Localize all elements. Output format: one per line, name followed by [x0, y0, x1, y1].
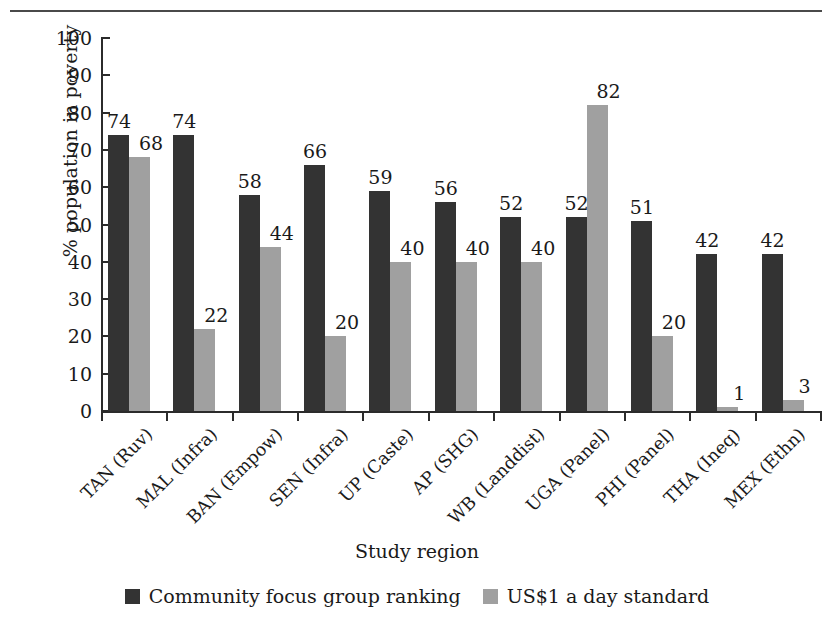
bar-value-label: 42	[751, 231, 795, 250]
bar-us-dollar-a-day-standard[interactable]	[129, 157, 150, 411]
legend-label: US$1 a day standard	[507, 585, 710, 607]
header-rule	[10, 10, 822, 12]
bar-value-label: 42	[685, 231, 729, 250]
x-tick-mark	[166, 411, 168, 421]
bar-group: 5282	[559, 38, 624, 411]
bar-group: 7468	[101, 38, 166, 411]
bar-community-focus-group-ranking[interactable]	[631, 221, 652, 411]
x-axis-title: Study region	[0, 540, 834, 562]
y-tick-label: 0	[40, 400, 92, 422]
bar-value-label: 52	[555, 194, 599, 213]
bar-community-focus-group-ranking[interactable]	[435, 202, 456, 411]
x-tick-mark	[428, 411, 430, 421]
bar-value-label: 74	[97, 112, 141, 131]
plot-area: 7468742258446620594056405240528251204214…	[101, 38, 820, 411]
x-tick-mark	[101, 411, 103, 421]
legend-item[interactable]: US$1 a day standard	[483, 585, 710, 607]
bar-group: 421	[689, 38, 754, 411]
bar-community-focus-group-ranking[interactable]	[173, 135, 194, 411]
bar-us-dollar-a-day-standard[interactable]	[390, 262, 411, 411]
bar-value-label: 3	[783, 377, 827, 396]
y-tick-label: 10	[40, 363, 92, 385]
bar-group: 5844	[232, 38, 297, 411]
bar-value-label: 66	[293, 142, 337, 161]
bar-group: 7422	[166, 38, 231, 411]
bar-group: 5940	[362, 38, 427, 411]
y-axis-title: % population in poverty	[59, 0, 81, 331]
bar-community-focus-group-ranking[interactable]	[566, 217, 587, 411]
y-tick-label: 50	[40, 214, 92, 236]
y-tick-label: 20	[40, 325, 92, 347]
x-tick-mark	[297, 411, 299, 421]
bar-value-label: 56	[424, 179, 468, 198]
bar-us-dollar-a-day-standard[interactable]	[194, 329, 215, 411]
bar-community-focus-group-ranking[interactable]	[108, 135, 129, 411]
bar-group: 423	[755, 38, 820, 411]
y-tick-label: 40	[40, 251, 92, 273]
legend-label: Community focus group ranking	[149, 585, 461, 607]
bar-us-dollar-a-day-standard[interactable]	[652, 336, 673, 411]
y-tick-label: 80	[40, 102, 92, 124]
x-tick-mark	[362, 411, 364, 421]
bar-group: 5240	[493, 38, 558, 411]
bar-us-dollar-a-day-standard[interactable]	[325, 336, 346, 411]
bar-value-label: 59	[358, 168, 402, 187]
bar-community-focus-group-ranking[interactable]	[304, 165, 325, 411]
bar-group: 5640	[428, 38, 493, 411]
bar-us-dollar-a-day-standard[interactable]	[260, 247, 281, 411]
y-tick-label: 70	[40, 139, 92, 161]
bar-community-focus-group-ranking[interactable]	[239, 195, 260, 411]
legend-item[interactable]: Community focus group ranking	[125, 585, 461, 607]
x-tick-mark	[624, 411, 626, 421]
bar-community-focus-group-ranking[interactable]	[500, 217, 521, 411]
bar-community-focus-group-ranking[interactable]	[696, 254, 717, 411]
legend-swatch-icon	[483, 589, 498, 604]
x-tick-mark	[755, 411, 757, 421]
bar-group: 5120	[624, 38, 689, 411]
bar-value-label: 58	[228, 172, 272, 191]
bar-value-label: 74	[162, 112, 206, 131]
bar-us-dollar-a-day-standard[interactable]	[456, 262, 477, 411]
y-tick-label: 90	[40, 64, 92, 86]
x-tick-mark	[232, 411, 234, 421]
bar-group: 6620	[297, 38, 362, 411]
y-tick-label: 100	[40, 27, 92, 49]
bar-community-focus-group-ranking[interactable]	[369, 191, 390, 411]
bar-us-dollar-a-day-standard[interactable]	[717, 407, 738, 411]
bar-chart-figure: % population in poverty 1009080706050403…	[0, 0, 834, 635]
x-tick-mark	[689, 411, 691, 421]
bar-community-focus-group-ranking[interactable]	[762, 254, 783, 411]
x-tick-mark	[559, 411, 561, 421]
x-tick-mark	[493, 411, 495, 421]
y-tick-label: 30	[40, 288, 92, 310]
bar-us-dollar-a-day-standard[interactable]	[587, 105, 608, 411]
bar-us-dollar-a-day-standard[interactable]	[521, 262, 542, 411]
bar-us-dollar-a-day-standard[interactable]	[783, 400, 804, 411]
x-axis-line	[101, 411, 822, 413]
y-tick-label: 60	[40, 176, 92, 198]
legend-swatch-icon	[125, 589, 140, 604]
x-tick-mark	[820, 411, 822, 421]
bar-value-label: 51	[620, 198, 664, 217]
bar-value-label: 52	[489, 194, 533, 213]
chart-legend: Community focus group rankingUS$1 a day …	[0, 585, 834, 607]
